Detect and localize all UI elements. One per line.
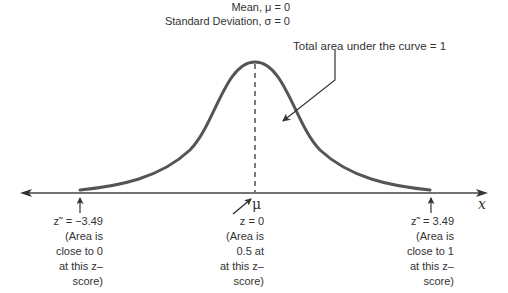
right-note-line: close to 1 [407,244,454,259]
mean-symbol: μ [252,196,261,212]
left-note-line: (Area is [53,229,103,244]
left-note-line: score) [53,274,103,289]
left-marker-label: z˜ = −3.49 (Area is close to 0 at this z… [53,214,103,289]
center-z-value: z = 0 [220,214,264,229]
right-note-line: at this z– [407,259,454,274]
mean-label: Mean, μ = 0 [120,0,290,14]
distribution-parameters: Mean, μ = 0 Standard Deviation, σ = 0 [120,0,290,28]
right-note-line: score) [407,274,454,289]
center-marker-arrow [233,199,251,214]
left-note-line: close to 0 [53,244,103,259]
left-z-value: z˜ = −3.49 [53,214,103,229]
center-note-line: 0.5 at [220,244,264,259]
sd-label: Standard Deviation, σ = 0 [120,14,290,28]
area-pointer-arrow [283,50,335,121]
right-marker-label: z˜ = 3.49 (Area is close to 1 at this z–… [407,214,454,289]
total-area-label: Total area under the curve = 1 [293,40,446,53]
right-z-value: z˜ = 3.49 [407,214,454,229]
center-note-line: (Area is [220,229,264,244]
center-marker-label: z = 0 (Area is 0.5 at at this z– score) [220,214,264,289]
center-note-line: at this z– [220,259,264,274]
left-note-line: at this z– [53,259,103,274]
bell-curve [80,62,430,190]
x-axis-label: x [478,196,486,212]
center-note-line: score) [220,274,264,289]
right-note-line: (Area is [407,229,454,244]
